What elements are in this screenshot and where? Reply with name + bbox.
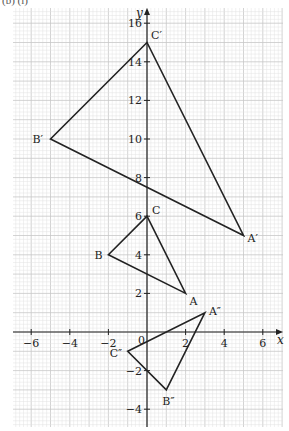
- y-tick-label: 2: [135, 287, 142, 300]
- y-tick-label: 12: [128, 94, 142, 107]
- vertex-label: A′: [247, 232, 259, 245]
- vertex-label: B″: [162, 395, 174, 408]
- y-tick-label: −4: [126, 403, 142, 416]
- coordinate-plane: xy0−6−4−2246−4−2246810121416 ABCA′B′C′A″…: [0, 0, 289, 431]
- y-tick-label: 10: [128, 133, 142, 146]
- x-tick-label: −6: [23, 337, 39, 350]
- coordinate-diagram: (b) (i) xy0−6−4−2246−4−2246810121416 ABC…: [0, 0, 289, 431]
- vertex-label: C′: [151, 29, 162, 42]
- vertex-label: A: [189, 295, 199, 308]
- y-tick-label: −2: [126, 365, 142, 378]
- vertex-label: C: [152, 204, 160, 217]
- x-tick-label: 4: [221, 337, 228, 350]
- vertex-label: A″: [208, 305, 221, 318]
- y-tick-label: 4: [135, 249, 142, 262]
- vertex-label: B′: [33, 133, 44, 146]
- y-tick-label: 14: [128, 56, 142, 69]
- x-tick-label: 6: [259, 337, 266, 350]
- vertex-label: B: [94, 249, 102, 262]
- x-tick-label: −4: [62, 337, 78, 350]
- x-axis-label: x: [277, 333, 284, 347]
- figure-caption: (b) (i): [2, 0, 28, 6]
- y-tick-label: 16: [128, 17, 142, 30]
- vertex-label: C″: [110, 347, 123, 360]
